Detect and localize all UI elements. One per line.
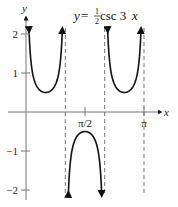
title-fn: csc 3 <box>100 8 126 23</box>
title-var: x <box>131 8 138 23</box>
x-tick-label: π <box>141 117 147 129</box>
function-branch <box>68 132 101 194</box>
asymptotes <box>65 28 144 194</box>
x-tick-label: π/2 <box>78 117 92 129</box>
title-num: 1 <box>95 7 99 16</box>
y-tick-label: 1 <box>13 67 19 79</box>
x-axis-label: x <box>163 106 169 118</box>
function-branch <box>29 30 62 92</box>
y-axis-label: y <box>21 2 27 14</box>
y-tick-label: −2 <box>6 184 18 196</box>
title-eq: = <box>81 8 88 23</box>
title-lhs: y <box>72 8 80 23</box>
y-tick-label: −1 <box>6 145 18 157</box>
title-den: 2 <box>95 17 99 26</box>
y-tick-label: 2 <box>13 28 19 40</box>
axes <box>8 18 160 200</box>
chart-title: y = 1 2 csc 3 x <box>72 7 138 26</box>
chart: 21−1−2π/2π y x y = 1 2 csc 3 x <box>0 0 178 207</box>
function-branch <box>108 30 141 92</box>
